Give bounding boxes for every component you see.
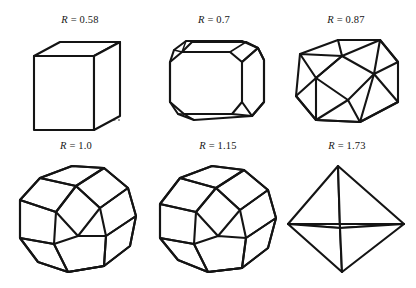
panel-cube: R = 0.58 (8, 14, 152, 136)
panel-octahedron: R = 1.73 (278, 140, 416, 286)
panel-label-octahedron: R = 1.73 (278, 140, 416, 152)
rhombicuboctahedron-drawing (4, 154, 148, 280)
panel-truncated-octahedron: R = 1.15 (146, 140, 290, 286)
octahedron-face-bottom-left (288, 224, 342, 272)
panel-label-truncated-octahedron: R = 1.15 (146, 140, 290, 152)
panel-cuboctahedron: R = 0.87 (276, 14, 416, 136)
panel-label-cuboctahedron: R = 0.87 (276, 14, 416, 26)
panel-label-cube: R = 0.58 (8, 14, 152, 26)
truncated-cube-drawing (142, 28, 286, 132)
panel-label-truncated-cube: R = 0.7 (142, 14, 286, 26)
octahedron-drawing (278, 154, 416, 280)
cube-right-face (94, 42, 120, 130)
panel-truncated-cube: R = 0.7 (142, 14, 286, 136)
octahedron-face-top-right (338, 166, 404, 228)
cube-drawing (8, 28, 152, 132)
cuboctahedron-drawing (276, 28, 416, 132)
polyhedra-figure: R = 0.58 R = 0.7 (0, 0, 416, 288)
panel-rhombicuboctahedron: R = 1.0 (4, 140, 148, 286)
panel-label-rhombicuboctahedron: R = 1.0 (4, 140, 148, 152)
truncated-octahedron-drawing (146, 154, 290, 280)
cube-front-face (34, 56, 94, 130)
octahedron-face-bottom-right (340, 224, 404, 272)
octahedron-face-top-left (288, 166, 340, 228)
